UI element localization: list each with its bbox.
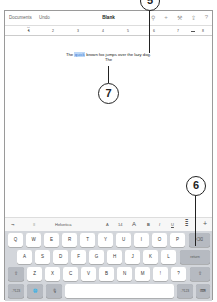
wrench-icon[interactable]: ⚒ bbox=[177, 14, 182, 21]
space-bar[interactable] bbox=[65, 284, 174, 298]
key-e[interactable]: E bbox=[44, 233, 59, 247]
callout-middle: 7 bbox=[98, 83, 119, 104]
hide-keyboard-key[interactable]: ⌨ bbox=[196, 284, 210, 298]
callout-right-leader bbox=[195, 196, 196, 246]
key-p[interactable]: P bbox=[170, 233, 185, 247]
key-j[interactable]: J bbox=[125, 250, 140, 264]
keyboard-row-3: ⇧ Z X C V B N M ! ? ⇧ bbox=[5, 267, 212, 283]
share-icon[interactable]: ⇪ bbox=[191, 14, 196, 21]
ruler-tick: 7 bbox=[177, 29, 179, 33]
key-v[interactable]: V bbox=[81, 267, 96, 281]
underline-button[interactable]: U bbox=[171, 222, 174, 227]
key-k[interactable]: K bbox=[143, 250, 158, 264]
font-larger-button[interactable]: A bbox=[132, 221, 136, 227]
font-size-value[interactable]: 14 bbox=[118, 222, 122, 227]
key-z[interactable]: Z bbox=[27, 267, 42, 281]
app-window: Documents Undo Blank ⚲ + ⚒ ⇪ ? ▭▲ 1 2 3 … bbox=[4, 10, 213, 300]
onscreen-keyboard: Q W E R T Y U I O P ⌫ A S D F G H J K L … bbox=[5, 231, 212, 301]
callout-middle-leader bbox=[108, 66, 109, 83]
key-b[interactable]: B bbox=[99, 267, 114, 281]
callout-right: 6 bbox=[186, 176, 206, 196]
key-h[interactable]: H bbox=[107, 250, 122, 264]
key-s[interactable]: S bbox=[35, 250, 50, 264]
shift-key-right[interactable]: ⇧ bbox=[190, 267, 210, 281]
text-line-2: The bbox=[105, 57, 112, 62]
key-d[interactable]: D bbox=[53, 250, 68, 264]
italic-button[interactable]: I bbox=[159, 222, 160, 227]
key-g[interactable]: G bbox=[89, 250, 104, 264]
key-i[interactable]: I bbox=[134, 233, 149, 247]
indent-icon[interactable]: ≡ bbox=[33, 222, 35, 227]
ruler-tick: 6 bbox=[153, 29, 155, 33]
format-toolbar: ⇥ ≡ Helvetica A 14 A B I U ≣ + bbox=[5, 217, 212, 232]
key-exclamation[interactable]: ! bbox=[153, 267, 168, 281]
shift-key-left[interactable]: ⇧ bbox=[8, 267, 24, 281]
selected-word[interactable]: quick bbox=[74, 52, 85, 57]
delete-key[interactable]: ⌫ bbox=[189, 233, 210, 247]
ruler-tick: 3 bbox=[77, 29, 79, 33]
microphone-key[interactable]: 🎙 bbox=[46, 284, 62, 298]
right-margin-marker[interactable] bbox=[191, 31, 195, 34]
document-text[interactable]: The quick brown fox jumps over the lazy … bbox=[15, 52, 202, 62]
font-smaller-button[interactable]: A bbox=[106, 222, 109, 227]
bold-button[interactable]: B bbox=[147, 222, 150, 227]
key-c[interactable]: C bbox=[63, 267, 78, 281]
keyboard-row-1: Q W E R T Y U I O P ⌫ bbox=[5, 233, 212, 249]
key-r[interactable]: R bbox=[62, 233, 77, 247]
numbers-key-right[interactable]: .?123 bbox=[177, 284, 193, 298]
callout-top-leader bbox=[149, 11, 150, 53]
globe-key[interactable]: 🌐 bbox=[27, 284, 43, 298]
key-u[interactable]: U bbox=[116, 233, 131, 247]
font-name-button[interactable]: Helvetica bbox=[55, 222, 71, 227]
key-n[interactable]: N bbox=[117, 267, 132, 281]
numbers-key-left[interactable]: .?123 bbox=[8, 284, 24, 298]
key-q[interactable]: Q bbox=[8, 233, 23, 247]
ruler-tick: 4 bbox=[102, 29, 104, 33]
key-o[interactable]: O bbox=[152, 233, 167, 247]
key-f[interactable]: F bbox=[71, 250, 86, 264]
ruler-tick: 1 bbox=[28, 29, 30, 33]
return-key[interactable]: return bbox=[180, 250, 210, 264]
navigation-bar: Documents Undo Blank ⚲ + ⚒ ⇪ ? bbox=[5, 11, 212, 26]
align-icon[interactable]: ≣ bbox=[185, 222, 188, 227]
key-w[interactable]: W bbox=[26, 233, 41, 247]
ruler-tick: 8 bbox=[202, 29, 204, 33]
ruler-tick: 5 bbox=[127, 29, 129, 33]
key-a[interactable]: A bbox=[17, 250, 32, 264]
key-m[interactable]: M bbox=[135, 267, 150, 281]
keyboard-row-2: A S D F G H J K L return bbox=[5, 250, 212, 266]
key-l[interactable]: L bbox=[161, 250, 176, 264]
tab-icon[interactable]: ⇥ bbox=[11, 222, 14, 227]
insert-button[interactable]: + bbox=[203, 220, 207, 227]
ruler-tick: 2 bbox=[52, 29, 54, 33]
key-x[interactable]: X bbox=[45, 267, 60, 281]
key-y[interactable]: Y bbox=[98, 233, 113, 247]
help-icon[interactable]: ? bbox=[205, 14, 208, 21]
plus-icon[interactable]: + bbox=[164, 14, 168, 21]
search-icon[interactable]: ⚲ bbox=[151, 14, 155, 21]
key-t[interactable]: T bbox=[80, 233, 95, 247]
document-body[interactable]: The quick brown fox jumps over the lazy … bbox=[5, 35, 212, 207]
keyboard-row-4: .?123 🌐 🎙 .?123 ⌨ bbox=[5, 284, 212, 300]
key-question[interactable]: ? bbox=[171, 267, 186, 281]
